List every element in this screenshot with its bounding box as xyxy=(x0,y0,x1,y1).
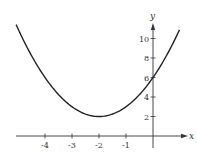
y-tick-label: 10 xyxy=(139,35,149,44)
y-tick-label: 4 xyxy=(144,93,149,102)
y-axis-arrow-icon xyxy=(151,23,155,30)
y-tick-label: 8 xyxy=(144,54,149,63)
x-axis-arrow-icon xyxy=(181,134,188,138)
parabola-chart: -4-3-2-1246810 x y xyxy=(0,0,197,155)
axes xyxy=(16,23,188,148)
y-axis-label: y xyxy=(149,11,156,21)
x-axis-label: x xyxy=(189,131,194,141)
y-tick-label: 2 xyxy=(144,113,149,122)
ticks: -4-3-2-1246810 xyxy=(41,35,156,151)
y-tick-label: 6 xyxy=(144,74,149,83)
x-tick-label: -2 xyxy=(95,141,103,150)
x-tick-label: -3 xyxy=(68,141,76,150)
x-tick-label: -1 xyxy=(122,141,130,150)
x-tick-label: -4 xyxy=(41,141,49,150)
